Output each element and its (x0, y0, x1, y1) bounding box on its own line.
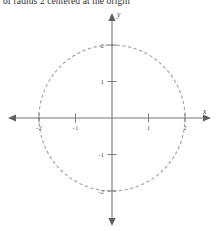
coordinate-plane: -2 -1 1 2 2 1 -1 -2 y x (0, 0, 219, 231)
y-axis-arrow-up (108, 13, 115, 21)
x-axis-arrow-left (8, 114, 16, 121)
y-tick-label-1: 1 (101, 78, 105, 86)
x-tick-label-2: 2 (183, 124, 187, 132)
y-axis-label: y (116, 10, 121, 19)
y-tick-label--2: -2 (98, 188, 104, 196)
x-tick-label--1: -1 (73, 124, 79, 132)
x-tick-label-1: 1 (147, 124, 151, 132)
y-axis-arrow-down (108, 218, 115, 226)
x-tick-label--2: -2 (36, 124, 42, 132)
figure-container: of radius 2 centered at the origin -2 -1… (0, 0, 219, 231)
y-tick-label--1: -1 (98, 151, 104, 159)
y-tick-label-2: 2 (101, 42, 105, 50)
x-axis-label: x (202, 107, 207, 116)
